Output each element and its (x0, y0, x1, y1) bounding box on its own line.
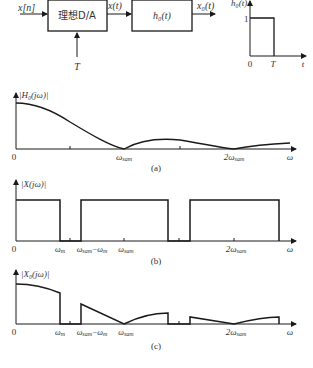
ideal-da-label: 理想D/A (58, 9, 96, 21)
plot-b-spectrum (16, 200, 279, 241)
output-label: x₀(t) (196, 0, 215, 12)
control-label: T (74, 61, 81, 72)
h0-T-label: T (270, 59, 276, 69)
plot-c-tick-2wsam: 2ωsam (226, 327, 247, 337)
plot-c-tick-wsam-wm: ωsam−ωm (77, 328, 108, 337)
plot-a-caption: (a) (151, 163, 161, 173)
plot-c-tick-wm: ωm (55, 328, 66, 337)
plot-b-y-label: |X(jω)| (21, 179, 46, 189)
h0-y-label: h₀(t) (231, 0, 247, 8)
input-label: x[n] (17, 2, 35, 13)
plot-a-tick-wsam: ωsam (116, 152, 133, 162)
h0-origin-label: 0 (248, 59, 253, 69)
plot-c-y-label: |X₀(jω)| (21, 269, 49, 279)
plot-a-y-label: |H₀(jω)| (19, 90, 48, 100)
h0-pulse (250, 18, 274, 56)
plot-a-H0: |H₀(jω)| 0 ωsam 2ωsam ω (a) (12, 90, 296, 173)
plot-a-x-label: ω (287, 152, 293, 162)
plot-c-origin: 0 (12, 327, 17, 337)
block-diagram: x[n] 理想D/A x(t) h₀(t) x₀(t) T (17, 0, 215, 72)
h0-t-label: t (302, 59, 305, 69)
plot-b-origin: 0 (12, 244, 17, 254)
plot-a-curve (16, 103, 290, 149)
plot-b-tick-wm: ωm (55, 245, 66, 254)
plot-c-spectrum (16, 284, 279, 324)
plot-c-caption: (c) (151, 341, 161, 351)
plot-c-tick-wsam: ωsam (118, 328, 134, 337)
plot-b-tick-wsam: ωsam (118, 245, 134, 254)
signal-diagram: x[n] 理想D/A x(t) h₀(t) x₀(t) T h₀(t) 1 0 … (0, 0, 313, 368)
plot-b-x-label: ω (287, 244, 293, 254)
plot-b-X: |X(jω)| 0 ωm ωsam−ωm ωsam 2ωsam ω (b) (12, 179, 296, 266)
plot-b-tick-2wsam: 2ωsam (226, 244, 247, 254)
plot-b-tick-wsam-wm: ωsam−ωm (77, 245, 108, 254)
plot-c-x-label: ω (287, 327, 293, 337)
plot-c-X0: |X₀(jω)| 0 ωm ωsam−ωm ωsam 2ωsam ω (c) (12, 269, 296, 351)
mid-signal-label: x(t) (107, 0, 123, 12)
h0-height-label: 1 (244, 14, 249, 24)
plot-a-origin: 0 (12, 152, 17, 162)
plot-b-caption: (b) (151, 256, 162, 266)
impulse-response-plot: h₀(t) 1 0 T t (231, 0, 306, 69)
plot-a-tick-2wsam: 2ωsam (224, 152, 245, 162)
zoh-label: h₀(t) (153, 10, 172, 22)
